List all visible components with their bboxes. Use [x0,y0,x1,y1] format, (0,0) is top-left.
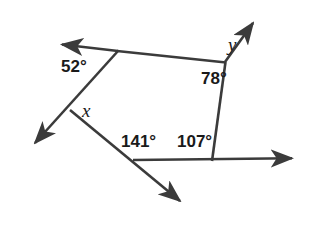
ray-upper-left [62,45,118,52]
geometry-figure: 52° 78° 141° 107° x y [0,0,320,226]
ray-lower-right [70,110,180,201]
segment-top [117,51,226,63]
angle-label-141: 141° [121,133,156,150]
angle-label-x: x [82,101,90,120]
angle-label-78: 78° [201,70,227,87]
angle-label-107: 107° [177,133,212,150]
geometry-canvas [0,0,320,226]
angle-label-y: y [228,35,236,54]
ray-right-horizontal [133,158,292,160]
angle-label-52: 52° [61,58,87,75]
